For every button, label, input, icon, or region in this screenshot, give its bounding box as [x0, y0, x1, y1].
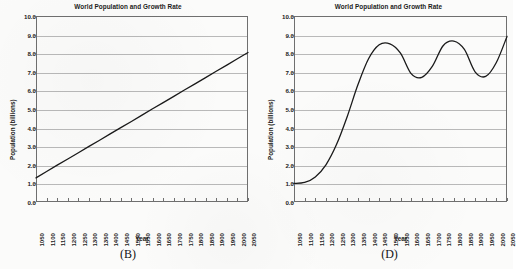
x-tick-mark [337, 198, 338, 201]
x-tick-mark [195, 198, 196, 201]
x-tick-mark [174, 198, 175, 201]
x-tick-mark [184, 198, 185, 201]
x-tick-mark [216, 198, 217, 201]
x-tick-mark [475, 198, 476, 201]
x-axis-label-d: Year [294, 235, 507, 242]
panel-caption-d: (D) [266, 247, 513, 262]
data-line-d [294, 16, 507, 202]
y-tick-label: 7.0 [2, 68, 36, 75]
x-tick-mark [47, 198, 48, 201]
x-tick-mark [464, 198, 465, 201]
x-tick-mark [78, 198, 79, 201]
series-path [294, 36, 507, 183]
chart-title-d: World Population and Growth Rate [264, 3, 513, 10]
y-tick-label: 1.0 [260, 180, 294, 187]
x-tick-mark [443, 198, 444, 201]
y-tick-label: 7.0 [260, 68, 294, 75]
y-tick-label: 4.0 [260, 124, 294, 131]
x-tick-mark [57, 198, 58, 201]
x-tick-mark [390, 198, 391, 201]
x-tick-mark [237, 198, 238, 201]
y-tick-label: 6.0 [260, 87, 294, 94]
x-tick-mark [454, 198, 455, 201]
x-tick-mark [100, 198, 101, 201]
data-line-b [36, 16, 248, 202]
x-tick-mark [347, 198, 348, 201]
y-tick-label: 2.0 [2, 161, 36, 168]
x-tick-mark [110, 198, 111, 201]
x-tick-mark [401, 198, 402, 201]
x-tick-mark [142, 198, 143, 201]
x-tick-mark [379, 198, 380, 201]
y-tick-label: 0.0 [2, 199, 36, 206]
x-tick-mark [163, 198, 164, 201]
x-tick-mark [326, 198, 327, 201]
y-tick-label: 9.0 [260, 31, 294, 38]
series-path [36, 52, 248, 177]
x-tick-mark [432, 198, 433, 201]
y-tick-label: 0.0 [260, 199, 294, 206]
chart-panel-b: World Population and Growth Rate Populat… [0, 0, 256, 269]
y-tick-label: 9.0 [2, 31, 36, 38]
y-axis-ticks-d: 0.01.02.03.04.05.06.07.08.09.010.0 [256, 16, 294, 202]
y-tick-label: 1.0 [2, 180, 36, 187]
x-tick-mark [507, 198, 508, 201]
x-tick-mark [131, 198, 132, 201]
y-tick-label: 8.0 [260, 50, 294, 57]
x-tick-mark [68, 198, 69, 201]
y-tick-label: 10.0 [260, 13, 294, 20]
y-tick-label: 3.0 [260, 143, 294, 150]
x-tick-mark [294, 198, 295, 201]
x-tick-mark [36, 198, 37, 201]
x-tick-mark [369, 198, 370, 201]
y-tick-label: 4.0 [2, 124, 36, 131]
y-tick-label: 8.0 [2, 50, 36, 57]
x-axis-label-b: Year [36, 235, 248, 242]
plot-area-b [36, 16, 248, 202]
x-tick-mark [422, 198, 423, 201]
x-tick-mark [411, 198, 412, 201]
x-tick-mark [305, 198, 306, 201]
y-tick-label: 10.0 [2, 13, 36, 20]
x-tick-label: 2050 [509, 233, 516, 247]
y-tick-label: 6.0 [2, 87, 36, 94]
y-axis-ticks-b: 0.01.02.03.04.05.06.07.08.09.010.0 [0, 16, 36, 202]
y-tick-label: 5.0 [2, 106, 36, 113]
y-tick-label: 3.0 [2, 143, 36, 150]
plot-area-d [294, 16, 507, 202]
chart-panel-d: World Population and Growth Rate Populat… [256, 0, 513, 269]
x-tick-mark [496, 198, 497, 201]
panel-caption-b: (B) [0, 247, 256, 262]
x-tick-mark [206, 198, 207, 201]
y-tick-label: 2.0 [260, 161, 294, 168]
x-tick-mark [486, 198, 487, 201]
x-tick-mark [89, 198, 90, 201]
x-tick-mark [358, 198, 359, 201]
y-tick-label: 5.0 [260, 106, 294, 113]
chart-title-b: World Population and Growth Rate [0, 3, 256, 10]
x-tick-mark [121, 198, 122, 201]
x-tick-mark [315, 198, 316, 201]
x-tick-mark [153, 198, 154, 201]
x-tick-mark [227, 198, 228, 201]
x-tick-mark [248, 198, 249, 201]
